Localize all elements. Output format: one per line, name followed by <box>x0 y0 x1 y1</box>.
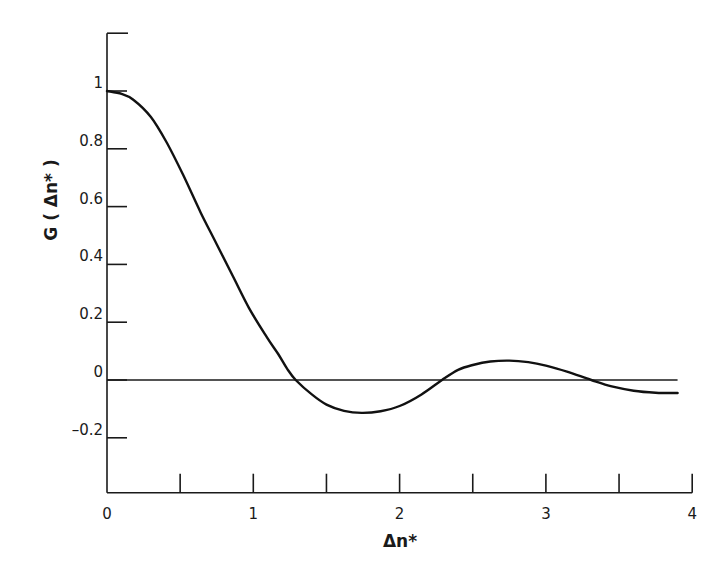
x-tick-label: 1 <box>249 505 259 523</box>
ticks <box>107 91 692 493</box>
axes <box>107 33 692 493</box>
y-tick-label: 0.2 <box>79 305 103 323</box>
x-tick-label: 0 <box>102 505 112 523</box>
x-tick-label: 3 <box>541 505 551 523</box>
y-tick-label: 0.6 <box>79 190 103 208</box>
x-axis-label: Δn* <box>383 531 417 551</box>
y-tick-label: –0.2 <box>72 421 103 439</box>
data-series-curve <box>107 91 678 413</box>
y-tick-label: 0 <box>93 363 103 381</box>
x-tick-label: 4 <box>687 505 697 523</box>
line-chart: 0123410.80.60.40.20–0.2 Δn* G ( Δn* ) <box>0 0 726 573</box>
y-tick-label: 0.8 <box>79 132 103 150</box>
y-tick-label: 1 <box>93 74 103 92</box>
y-axis-label: G ( Δn* ) <box>41 159 61 240</box>
y-tick-label: 0.4 <box>79 247 103 265</box>
x-tick-label: 2 <box>395 505 405 523</box>
